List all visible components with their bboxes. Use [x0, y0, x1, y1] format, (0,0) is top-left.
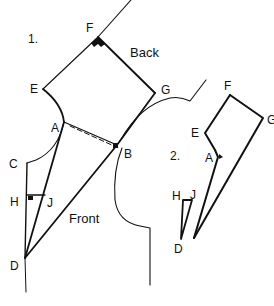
line-F-E	[43, 37, 98, 89]
region-label-back: Back	[130, 46, 159, 59]
step-number-2: 2.	[170, 150, 180, 162]
point-label-A: A	[51, 122, 59, 134]
line-A-B	[64, 122, 117, 145]
piece2-label-H: H	[172, 190, 181, 202]
piece2-label-F: F	[224, 80, 231, 92]
pattern-diagram: 1. F Back E G A B C H J Front D 2. F G E…	[0, 0, 274, 306]
dashed-A-B	[70, 126, 114, 146]
point-label-H: H	[10, 196, 19, 208]
line-D-extension	[25, 258, 26, 292]
line-B-D	[25, 145, 117, 258]
step-number-1: 1.	[28, 33, 38, 45]
curve-E-A	[43, 89, 64, 122]
point-label-B: B	[124, 148, 132, 160]
point-label-F: F	[86, 22, 93, 34]
piece2-label-G: G	[267, 114, 274, 126]
point-label-E: E	[30, 83, 38, 95]
line-C-D	[25, 163, 27, 258]
piece2-F-E-A-D	[194, 95, 230, 238]
piece2-F-G-D	[194, 95, 263, 238]
notch-mark-A2	[219, 154, 223, 159]
point-label-D: D	[10, 260, 19, 272]
point-marker-B	[113, 143, 118, 148]
piece2-label-D: D	[174, 243, 183, 255]
piece2-label-J: J	[190, 189, 196, 201]
piece2-label-E: E	[191, 127, 199, 139]
point-label-J: J	[47, 197, 53, 209]
right-angle-mark-H	[28, 196, 33, 200]
right-angle-mark-F	[91, 37, 105, 47]
point-label-G: G	[161, 84, 170, 96]
side-curve-bottom	[115, 148, 150, 285]
piece2-label-A: A	[205, 152, 213, 164]
point-label-C: C	[9, 158, 18, 170]
piece2-H-J-D	[181, 200, 192, 239]
region-label-front: Front	[69, 212, 99, 225]
line-A-D	[25, 122, 64, 258]
shoulder-extension-line	[98, 0, 131, 37]
